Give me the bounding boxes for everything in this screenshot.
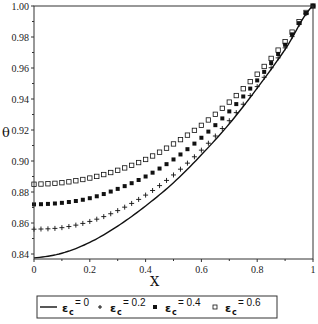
chart: 0.840.860.880.900.920.940.960.981.0000.2… xyxy=(0,0,318,324)
plot-area xyxy=(32,4,316,258)
axes: 0.840.860.880.900.920.940.960.981.0000.2… xyxy=(12,1,316,276)
legend-subscript: c xyxy=(172,308,177,317)
y-tick-label: 0.90 xyxy=(12,156,30,167)
legend-subscript: c xyxy=(69,308,74,317)
legend-item: εc= 0.6 xyxy=(213,297,261,317)
legend-value: = 0 xyxy=(75,297,90,308)
x-axis-label: X xyxy=(150,274,160,289)
x-tick-label: 0.8 xyxy=(251,264,264,275)
legend-subscript: c xyxy=(117,308,122,317)
y-tick-label: 0.94 xyxy=(12,94,30,105)
legend-epsilon-symbol: ε xyxy=(110,302,116,315)
y-tick-label: 0.88 xyxy=(12,187,30,198)
y-tick-label: 0.96 xyxy=(12,63,30,74)
legend-epsilon-symbol: ε xyxy=(62,302,68,315)
series-plus xyxy=(32,4,316,232)
legend: εc= 0εc= 0.2εc= 0.4εc= 0.6 xyxy=(37,296,277,318)
y-tick-label: 0.86 xyxy=(12,218,30,229)
x-tick-label: 0.2 xyxy=(84,264,97,275)
legend-value: = 0.4 xyxy=(178,297,201,308)
x-tick-label: 0 xyxy=(32,264,37,275)
legend-epsilon-symbol: ε xyxy=(165,302,171,315)
y-tick-label: 1.00 xyxy=(12,1,30,12)
legend-epsilon-symbol: ε xyxy=(225,302,231,315)
legend-subscript: c xyxy=(232,308,237,317)
legend-item: εc= 0.4 xyxy=(153,297,201,317)
y-tick-label: 0.84 xyxy=(12,249,30,260)
plot-frame xyxy=(34,6,313,259)
legend-item: εc= 0 xyxy=(40,297,90,317)
x-tick-label: 0.6 xyxy=(195,264,208,275)
y-axis-label: θ xyxy=(2,125,10,140)
legend-item: εc= 0.2 xyxy=(98,297,146,317)
y-tick-label: 0.98 xyxy=(12,32,30,43)
series-line xyxy=(34,6,313,258)
legend-value: = 0.2 xyxy=(123,297,146,308)
legend-value: = 0.6 xyxy=(238,297,261,308)
x-tick-label: 1 xyxy=(311,264,316,275)
y-tick-label: 0.92 xyxy=(12,125,30,136)
